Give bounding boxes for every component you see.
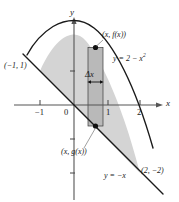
bottom-point-leader-line: [84, 128, 96, 148]
bottom-point-marker: [93, 123, 98, 128]
x-tick-label-1: 1: [106, 108, 110, 117]
x-tick-label-2: 2: [137, 108, 141, 117]
parabola-equation-exponent: 2: [143, 52, 146, 58]
top-point-label: (x, f(x)): [102, 31, 126, 39]
representative-rectangle: [88, 48, 103, 127]
intersection-label-right: (2, −2): [141, 167, 164, 175]
x-axis-label: x: [166, 99, 170, 108]
intersection-label-left: (−1, 1): [4, 62, 27, 70]
delta-x-label: Δx: [85, 70, 94, 79]
x-tick-label-0: 0: [64, 108, 68, 117]
figure-area-between-curves: y x −1 0 1 2 (−1, 1) (2, −2) (x, f(x)) (…: [0, 0, 179, 202]
y-axis-label: y: [70, 8, 74, 17]
top-point-leader-line: [97, 40, 104, 46]
x-axis-arrowhead: [156, 102, 163, 107]
parabola-equation-text: y = 2 − x: [113, 54, 143, 63]
parabola-equation-label: y = 2 − x2: [113, 53, 146, 63]
x-tick-label-minus1: −1: [35, 108, 44, 117]
line-equation-label: y = −x: [104, 172, 126, 180]
bottom-point-label: (x, g(x)): [61, 148, 87, 156]
